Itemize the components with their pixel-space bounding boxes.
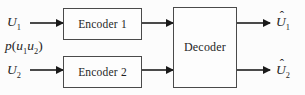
label-joint-pmf: p(u1u2): [5, 38, 43, 54]
block-diagram: U1 p(u1u2) U2 Encoder 1 Encoder 2 Decode…: [0, 0, 305, 95]
arrow-encoder2-to-decoder: [142, 69, 173, 71]
arrow-encoder1-to-decoder: [142, 22, 173, 24]
block-encoder1-label: Encoder 1: [78, 18, 127, 30]
block-encoder2-label: Encoder 2: [78, 66, 127, 78]
label-output-u1hat: ˆU1: [276, 14, 290, 30]
arrow-u1-to-encoder1: [30, 22, 63, 24]
arrowhead-icon: [263, 66, 271, 74]
block-encoder1: Encoder 1: [63, 8, 142, 40]
block-decoder: Decoder: [173, 7, 237, 88]
arrow-u2-to-encoder2: [30, 69, 63, 71]
block-decoder-label: Decoder: [184, 40, 226, 55]
label-input-u1: U1: [7, 14, 21, 30]
arrowhead-icon: [263, 19, 271, 27]
arrow-decoder-to-u1hat: [237, 22, 270, 24]
label-output-u2hat: ˆU2: [276, 62, 290, 78]
block-encoder2: Encoder 2: [63, 56, 142, 88]
label-input-u2: U2: [7, 62, 21, 78]
arrow-decoder-to-u2hat: [237, 69, 270, 71]
